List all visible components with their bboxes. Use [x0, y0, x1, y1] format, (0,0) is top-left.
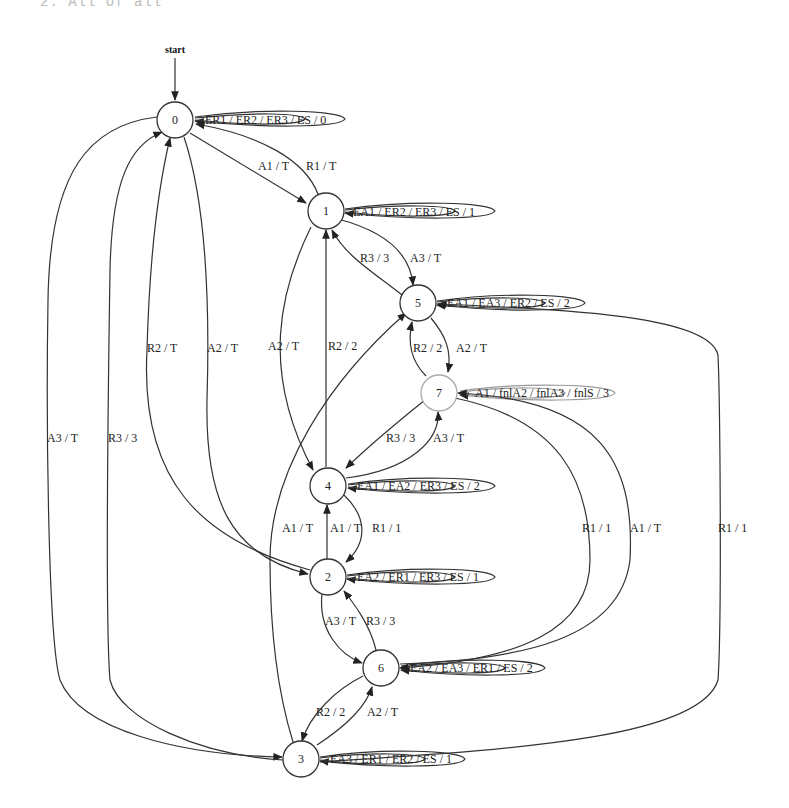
edge-4-7: A3 / T [346, 412, 465, 478]
svg-text:3: 3 [298, 752, 304, 766]
self-loop-4: EA1 / EA2 / ER3 / ES / 2 [348, 478, 495, 493]
self-loop-7: A1 / fnlA2 / fnlA3 / fnlS / 3 [460, 385, 615, 400]
svg-text:7: 7 [436, 386, 442, 400]
edge-0-2: A2 / T [184, 137, 308, 574]
edge-6-3: R2 / 2 [302, 676, 363, 741]
edge-1-5: A3 / T [338, 219, 442, 285]
edge-7-6: R1 / 1 [400, 398, 611, 668]
svg-text:A1 / T: A1 / T [330, 521, 362, 535]
edge-0-3: A3 / T [47, 117, 282, 757]
state-node-0[interactable]: 0 [157, 102, 193, 138]
svg-text:A2 / T: A2 / T [367, 705, 399, 719]
state-node-3[interactable]: 3 [283, 741, 319, 777]
edge-4-1: R2 / 2 [326, 230, 357, 467]
svg-text:R3 / 3: R3 / 3 [108, 431, 137, 445]
start-label: start [165, 44, 186, 55]
svg-text:A2 / T: A2 / T [207, 341, 239, 355]
svg-text:4: 4 [325, 479, 331, 493]
svg-text:EA2 / ER1 / ER3 / ES / 1: EA2 / ER1 / ER3 / ES / 1 [357, 570, 479, 584]
edge-0-1: A1 / T [190, 133, 306, 203]
svg-text:R2 / T: R2 / T [147, 341, 178, 355]
svg-text:0: 0 [172, 113, 178, 127]
svg-text:A2 / T: A2 / T [456, 341, 488, 355]
self-loop-0: ER1 / ER2 / ER3 / ES / 0 [195, 111, 345, 127]
state-diagram: start ER1 / ER2 / ER3 / ES / 0 EA1 / ER2… [0, 0, 789, 808]
svg-text:R1 / T: R1 / T [306, 159, 337, 173]
svg-text:EA1 / ER2 / ER3 / ES / 1: EA1 / ER2 / ER3 / ES / 1 [353, 205, 475, 219]
svg-text:ER1 / ER2 / ER3 / ES / 0: ER1 / ER2 / ER3 / ES / 0 [205, 113, 326, 127]
edge-3-0: R3 / 3 [107, 132, 283, 760]
svg-text:A3 / T: A3 / T [325, 614, 357, 628]
svg-text:A1 / T: A1 / T [282, 521, 314, 535]
self-loop-1: EA1 / ER2 / ER3 / ES / 1 [345, 203, 495, 219]
svg-text:R3 / 3: R3 / 3 [366, 614, 395, 628]
state-node-4[interactable]: 4 [310, 468, 346, 504]
edge-7-5: R2 / 2 [410, 322, 442, 376]
edge-5-1: R3 / 3 [332, 230, 402, 295]
svg-text:6: 6 [378, 661, 384, 675]
edge-2-4: A1 / T [327, 505, 362, 560]
svg-text:R1 / 1: R1 / 1 [718, 521, 747, 535]
svg-text:R2 / 2: R2 / 2 [328, 339, 357, 353]
edge-7-4: R3 / 3 [346, 400, 425, 468]
state-node-5[interactable]: 5 [400, 285, 436, 321]
state-node-6[interactable]: 6 [363, 650, 399, 686]
state-node-1[interactable]: 1 [308, 193, 344, 229]
edge-2-6: A3 / T [322, 594, 362, 663]
svg-text:A1 / T: A1 / T [630, 521, 662, 535]
svg-text:R3 / 3: R3 / 3 [360, 251, 389, 265]
svg-text:R2 / 2: R2 / 2 [413, 341, 442, 355]
svg-text:A1 / T: A1 / T [258, 159, 290, 173]
svg-text:R3 / 3: R3 / 3 [386, 431, 415, 445]
svg-text:1: 1 [323, 204, 329, 218]
svg-text:A3 / T: A3 / T [433, 431, 465, 445]
svg-text:2: 2 [325, 570, 331, 584]
state-node-7[interactable]: 7 [421, 375, 457, 411]
svg-text:EA1 / EA2 / ER3 / ES / 2: EA1 / EA2 / ER3 / ES / 2 [357, 479, 480, 493]
state-node-2[interactable]: 2 [310, 559, 346, 595]
svg-text:A3 / T: A3 / T [410, 251, 442, 265]
self-loop-2: EA2 / ER1 / ER3 / ES / 1 [347, 569, 495, 584]
svg-text:R1 / 1: R1 / 1 [582, 521, 611, 535]
svg-text:5: 5 [415, 296, 421, 310]
svg-text:A2 / T: A2 / T [268, 339, 300, 353]
svg-text:A1 / fnlA2 / fnlA3 / fnlS / 3: A1 / fnlA2 / fnlA3 / fnlS / 3 [475, 386, 609, 400]
svg-text:R2 / 2: R2 / 2 [316, 705, 345, 719]
svg-text:R1 / 1: R1 / 1 [372, 521, 401, 535]
svg-text:A3 / T: A3 / T [47, 431, 79, 445]
svg-text:EA1 / EA3 / ER2 / ES / 2: EA1 / EA3 / ER2 / ES / 2 [447, 296, 570, 310]
self-loop-6: EA2 / EA3 / ER1 / ES / 2 [401, 660, 545, 675]
